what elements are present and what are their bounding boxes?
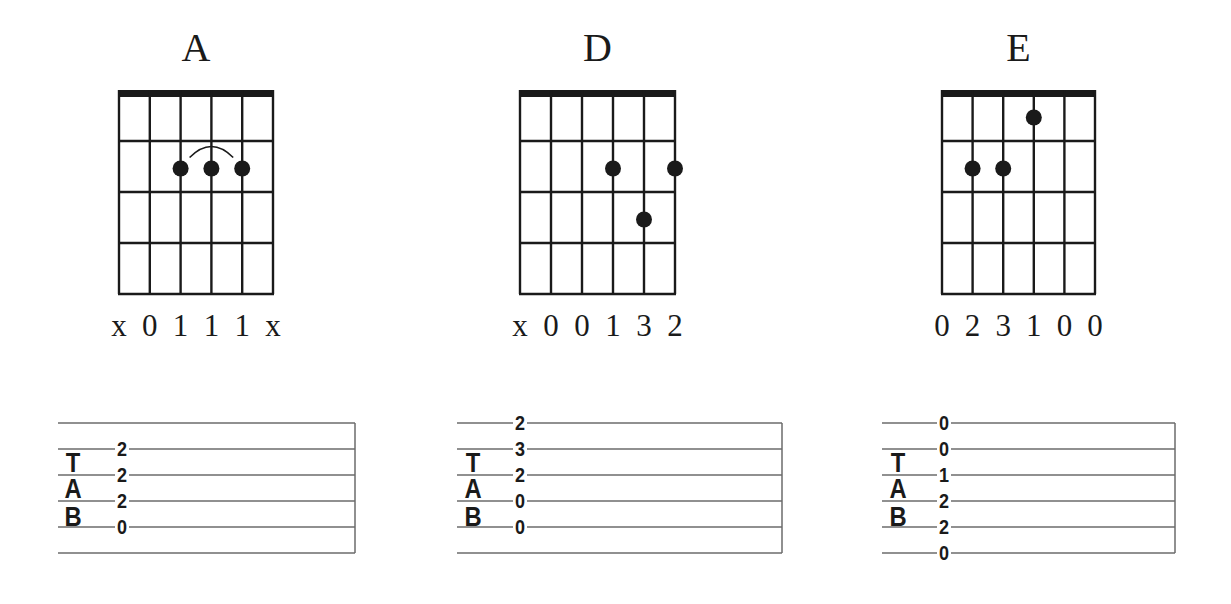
nut (941, 90, 1096, 97)
finger-label: 1 (173, 308, 189, 343)
chord-chart: Ax0111xTAB2220Dx00132TAB23200E023100TAB0… (0, 0, 1231, 604)
finger-label: 3 (636, 308, 652, 343)
finger-label: 1 (1026, 308, 1042, 343)
fretboard (519, 90, 683, 294)
finger-label: 0 (1087, 308, 1103, 343)
tab-fret-number: 2 (939, 490, 949, 512)
tab-fret-number: 2 (939, 516, 949, 538)
finger-dot (173, 161, 189, 177)
fretboard (941, 90, 1096, 294)
chord-name: A (182, 25, 211, 70)
tab-clef: TAB (464, 446, 481, 532)
finger-label: x (111, 308, 127, 343)
nut (118, 90, 274, 97)
chord-a: Ax0111xTAB2220 (58, 25, 355, 553)
tab-fret-number: 0 (939, 412, 949, 434)
tab-fret-number: 0 (117, 516, 127, 538)
finger-label: x (512, 308, 528, 343)
finger-label: 2 (965, 308, 981, 343)
finger-dot (667, 161, 683, 177)
tab-fret-number: 2 (515, 464, 525, 486)
tab-clef-letter: B (464, 500, 481, 532)
tab-fret-number: 3 (515, 438, 525, 460)
finger-dot (203, 161, 219, 177)
tab-staff: TAB001220 (882, 412, 1175, 564)
chord-d: Dx00132TAB23200 (457, 25, 782, 553)
finger-dot (995, 161, 1011, 177)
finger-label: 0 (574, 308, 590, 343)
tab-fret-number: 0 (939, 542, 949, 564)
tab-fret-number: 2 (117, 490, 127, 512)
chord-e: E023100TAB001220 (882, 25, 1175, 564)
tab-fret-number: 1 (939, 464, 949, 486)
finger-label: 0 (1057, 308, 1073, 343)
finger-label: x (265, 308, 281, 343)
tab-staff: TAB2220 (58, 423, 355, 553)
tab-fret-number: 2 (117, 438, 127, 460)
finger-dot (234, 161, 250, 177)
tab-clef: TAB (889, 446, 906, 532)
finger-label: 0 (543, 308, 559, 343)
finger-dot (605, 161, 621, 177)
finger-label: 1 (605, 308, 621, 343)
finger-label: 2 (667, 308, 683, 343)
finger-labels: x0111x (111, 308, 281, 343)
tab-clef: TAB (64, 446, 81, 532)
tab-fret-number: 0 (939, 438, 949, 460)
nut (519, 90, 676, 97)
chord-name: E (1006, 25, 1030, 70)
finger-label: 0 (934, 308, 950, 343)
tab-fret-number: 2 (117, 464, 127, 486)
finger-dot (965, 161, 981, 177)
tab-fret-number: 2 (515, 412, 525, 434)
fretboard (118, 90, 274, 294)
chords-container: Ax0111xTAB2220Dx00132TAB23200E023100TAB0… (58, 25, 1175, 564)
finger-dot (636, 212, 652, 228)
tab-clef-letter: B (889, 500, 906, 532)
tab-fret-number: 0 (515, 516, 525, 538)
finger-labels: x00132 (512, 308, 683, 343)
finger-labels: 023100 (934, 308, 1103, 343)
tab-clef-letter: B (64, 500, 81, 532)
tab-staff: TAB23200 (457, 412, 782, 553)
finger-label: 1 (204, 308, 220, 343)
tab-fret-number: 0 (515, 490, 525, 512)
finger-label: 1 (234, 308, 250, 343)
finger-label: 3 (995, 308, 1011, 343)
finger-dot (1026, 110, 1042, 126)
finger-label: 0 (142, 308, 158, 343)
chord-name: D (583, 25, 612, 70)
